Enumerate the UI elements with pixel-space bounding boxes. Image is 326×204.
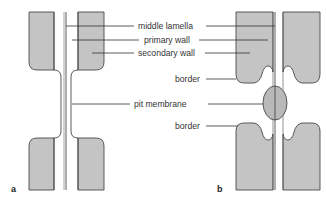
secondary-wall-right-bottom-a bbox=[78, 138, 104, 190]
panel-b: b bbox=[217, 12, 320, 194]
label-primary-wall: primary wall bbox=[144, 35, 190, 45]
secondary-wall-left-top-a bbox=[29, 12, 54, 70]
secondary-wall-left-bottom-b bbox=[236, 123, 273, 190]
label-border-bottom: border bbox=[175, 121, 200, 131]
secondary-wall-left-top-b bbox=[236, 12, 273, 83]
secondary-wall-left-bottom-a bbox=[29, 138, 54, 190]
primary-wall-right-a bbox=[71, 12, 78, 190]
pit-diagram: a b middle lamella primary wall secondar… bbox=[0, 0, 326, 204]
label-pit-membrane: pit membrane bbox=[134, 99, 187, 109]
label-secondary-wall: secondary wall bbox=[138, 48, 195, 58]
panel-a: a bbox=[11, 12, 104, 194]
panel-label-a: a bbox=[11, 184, 17, 194]
label-border-top: border bbox=[175, 74, 200, 84]
label-middle-lamella: middle lamella bbox=[138, 21, 193, 31]
secondary-wall-right-top-a bbox=[78, 12, 104, 70]
panel-label-b: b bbox=[217, 184, 223, 194]
primary-wall-left-a bbox=[54, 12, 61, 190]
secondary-wall-right-bottom-b bbox=[283, 123, 320, 190]
secondary-wall-right-top-b bbox=[283, 12, 320, 83]
